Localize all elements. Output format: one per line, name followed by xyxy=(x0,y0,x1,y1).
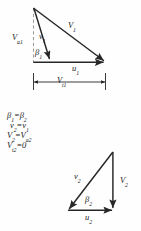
label-beta1: β1 xyxy=(35,48,42,57)
label-v2: v2 xyxy=(74,172,81,181)
label-V1: V1 xyxy=(68,21,76,30)
label-Vt1: Vt1 xyxy=(57,76,66,85)
label-Va1: Va1 xyxy=(12,33,23,42)
label-v1: v1 xyxy=(39,32,46,41)
label-u1: u1 xyxy=(72,64,79,73)
figure-canvas: Va1 v1 β1 V1 u1 Vt1 β1=β2 v2=v1 V2=Va2 V… xyxy=(0,0,141,231)
label-V2: V2 xyxy=(120,176,128,185)
dimension-line-Vt1 xyxy=(34,73,106,90)
equation-block: β1=β2 v2=v1 V2=Va2 Vt2=0 xyxy=(7,110,31,150)
label-beta2: β2 xyxy=(85,195,92,204)
equation-row: β1=β2 xyxy=(7,110,31,120)
label-u2: u2 xyxy=(85,213,92,222)
